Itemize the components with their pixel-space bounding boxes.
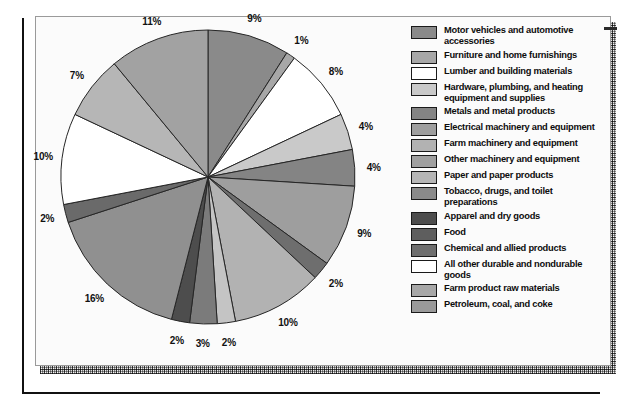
legend-item-label: Food (444, 227, 466, 238)
pie-slice-label: 2% (170, 335, 184, 346)
legend-item-label: Motor vehicles and automotive accessorie… (444, 25, 607, 48)
pie-chart-area: 9%1%8%4%4%9%2%10%2%3%2%16%2%10%7%11% (36, 17, 406, 367)
pie-slice-label: 2% (40, 213, 54, 224)
page-rule-left (22, 18, 24, 394)
pie-slice-label: 10% (34, 151, 53, 162)
pie-slice-label: 10% (278, 317, 297, 328)
legend-item-label: Petroleum, coal, and coke (444, 299, 552, 310)
pie-slice-label: 11% (142, 15, 161, 26)
page-rule-bottom (22, 392, 600, 394)
legend-swatch (411, 171, 437, 184)
pie-slice-label: 2% (222, 336, 236, 347)
legend-item-label: Furniture and home furnishings (444, 50, 577, 61)
legend-swatch (411, 139, 437, 152)
legend-swatch (411, 260, 437, 273)
pie-slice-label: 9% (357, 228, 371, 239)
pie-slice-label: 1% (294, 34, 308, 45)
legend-item-label: Farm machinery and equipment (444, 138, 578, 149)
legend-item[interactable]: Paper and paper products (411, 170, 607, 184)
legend-swatch (411, 228, 437, 241)
legend-item[interactable]: All other durable and nondurable goods (411, 259, 607, 282)
pie-slice-label: 16% (85, 293, 104, 304)
legend-item[interactable]: Chemical and allied products (411, 243, 607, 257)
legend-swatch (411, 26, 437, 39)
legend-item[interactable]: Farm product raw materials (411, 283, 607, 297)
legend-item[interactable]: Electrical machinery and equipment (411, 122, 607, 136)
chart-legend: Motor vehicles and automotive accessorie… (411, 25, 607, 315)
pie-slice-label: 9% (247, 12, 261, 23)
pie-slice-label: 7% (70, 70, 84, 81)
legend-swatch (411, 300, 437, 313)
legend-item[interactable]: Other machinery and equipment (411, 154, 607, 168)
legend-item-label: Paper and paper products (444, 170, 553, 181)
legend-item-label: Chemical and allied products (444, 243, 566, 254)
legend-swatch (411, 51, 437, 64)
legend-item[interactable]: Food (411, 227, 607, 241)
legend-item[interactable]: Motor vehicles and automotive accessorie… (411, 25, 607, 48)
pie-slice-label: 4% (359, 120, 373, 131)
figure-root: 9%1%8%4%4%9%2%10%2%3%2%16%2%10%7%11% Mot… (0, 0, 622, 411)
legend-swatch (411, 123, 437, 136)
margin-tick-mark (604, 27, 617, 30)
chart-panel: 9%1%8%4%4%9%2%10%2%3%2%16%2%10%7%11% Mot… (35, 16, 611, 366)
legend-item-label: Farm product raw materials (444, 283, 559, 294)
legend-swatch (411, 155, 437, 168)
legend-swatch (411, 187, 437, 200)
legend-item[interactable]: Metals and metal products (411, 106, 607, 120)
legend-item[interactable]: Apparel and dry goods (411, 211, 607, 225)
legend-item[interactable]: Lumber and building materials (411, 66, 607, 80)
pie-slice-label: 4% (367, 161, 381, 172)
legend-swatch (411, 83, 437, 96)
legend-item[interactable]: Petroleum, coal, and coke (411, 299, 607, 313)
pie-slice-label: 8% (329, 66, 343, 77)
legend-item-label: Apparel and dry goods (444, 211, 540, 222)
legend-swatch (411, 212, 437, 225)
legend-swatch (411, 244, 437, 257)
legend-swatch (411, 107, 437, 120)
pie-slice-label: 3% (196, 337, 210, 348)
legend-item[interactable]: Hardware, plumbing, and heating equipmen… (411, 82, 607, 105)
legend-item-label: Other machinery and equipment (444, 154, 579, 165)
pie-slice-label: 2% (329, 277, 343, 288)
legend-item-label: Tobacco, drugs, and toilet preparations (444, 186, 607, 209)
legend-item[interactable]: Furniture and home furnishings (411, 50, 607, 64)
legend-swatch (411, 67, 437, 80)
legend-item-label: Electrical machinery and equipment (444, 122, 595, 133)
legend-item-label: Metals and metal products (444, 106, 555, 117)
legend-item-label: All other durable and nondurable goods (444, 259, 607, 282)
legend-item[interactable]: Farm machinery and equipment (411, 138, 607, 152)
legend-item[interactable]: Tobacco, drugs, and toilet preparations (411, 186, 607, 209)
legend-swatch (411, 284, 437, 297)
legend-item-label: Lumber and building materials (444, 66, 572, 77)
pie-chart (58, 27, 358, 327)
legend-item-label: Hardware, plumbing, and heating equipmen… (444, 82, 607, 105)
pie-wrap: 9%1%8%4%4%9%2%10%2%3%2%16%2%10%7%11% (58, 27, 358, 327)
